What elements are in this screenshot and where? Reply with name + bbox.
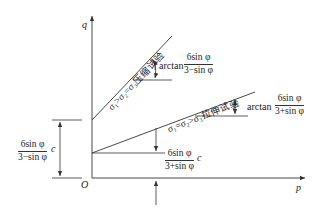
- extension-slope-fraction: 6sin φ 3+sin φ: [275, 94, 304, 116]
- diagram-canvas: q p O σ₁>σ₂=σ₃压缩试验 σ₁=σ₂>σ₃拉伸试验 arctan 6…: [0, 0, 323, 213]
- compression-slope-prefix: arctan: [159, 61, 183, 71]
- compression-intercept-fraction: 6sin φ 3−sin φ: [18, 140, 47, 162]
- p-axis-label: p: [296, 183, 301, 193]
- q-axis-label: q: [82, 20, 87, 30]
- extension-intercept-fraction: 6sin φ 3+sin φ: [165, 149, 194, 171]
- extension-slope-prefix: arctan: [247, 102, 271, 112]
- origin-label: O: [81, 180, 88, 190]
- extension-intercept-c: c: [197, 153, 201, 163]
- compression-slope-fraction: 6sin φ 3−sin φ: [184, 53, 213, 75]
- compression-intercept-c: c: [51, 144, 55, 154]
